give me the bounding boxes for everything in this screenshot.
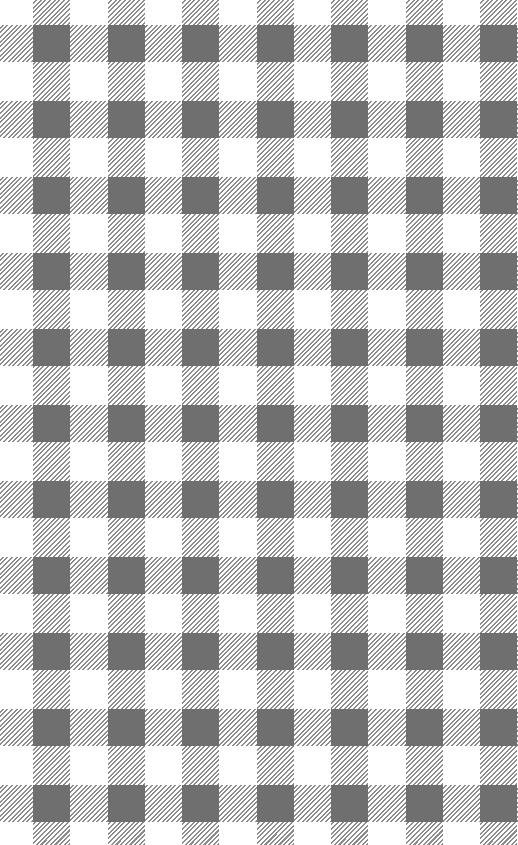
- overlap-square: [480, 177, 517, 214]
- overlap-square: [33, 405, 70, 442]
- overlap-square: [108, 481, 145, 518]
- overlap-square: [257, 557, 294, 594]
- overlap-square: [33, 329, 70, 366]
- overlap-square: [257, 785, 294, 822]
- overlap-square: [33, 177, 70, 214]
- overlap-square: [257, 253, 294, 290]
- overlap-square: [257, 709, 294, 746]
- overlap-square: [480, 329, 517, 366]
- overlap-square: [182, 557, 219, 594]
- overlap-square: [108, 329, 145, 366]
- overlap-square: [480, 25, 517, 62]
- overlap-square: [331, 481, 368, 518]
- overlap-square: [331, 329, 368, 366]
- overlap-square: [182, 785, 219, 822]
- overlap-square: [182, 405, 219, 442]
- overlap-square: [480, 633, 517, 670]
- overlap-square: [331, 633, 368, 670]
- overlap-square: [406, 329, 443, 366]
- overlap-square: [108, 709, 145, 746]
- gingham-pattern: [0, 0, 518, 845]
- overlap-square: [33, 785, 70, 822]
- overlap-square: [257, 25, 294, 62]
- overlap-square: [182, 481, 219, 518]
- overlap-square: [406, 25, 443, 62]
- overlap-square: [182, 25, 219, 62]
- overlap-square: [406, 253, 443, 290]
- overlap-square: [331, 25, 368, 62]
- overlap-square: [108, 101, 145, 138]
- overlap-square: [480, 405, 517, 442]
- overlap-square: [406, 557, 443, 594]
- overlap-square: [108, 633, 145, 670]
- overlap-square: [406, 481, 443, 518]
- overlap-square: [257, 405, 294, 442]
- overlap-square: [406, 709, 443, 746]
- overlap-square: [108, 405, 145, 442]
- overlap-square: [331, 101, 368, 138]
- overlap-square: [480, 481, 517, 518]
- overlap-square: [480, 253, 517, 290]
- overlap-square: [33, 25, 70, 62]
- overlap-square: [406, 101, 443, 138]
- overlap-square: [33, 633, 70, 670]
- overlap-square: [480, 785, 517, 822]
- overlap-square: [406, 785, 443, 822]
- overlap-square: [33, 557, 70, 594]
- overlap-square: [406, 177, 443, 214]
- overlap-square: [33, 709, 70, 746]
- overlap-square: [331, 557, 368, 594]
- overlap-square: [331, 709, 368, 746]
- overlap-square: [182, 101, 219, 138]
- overlap-square: [33, 481, 70, 518]
- overlap-square: [108, 253, 145, 290]
- overlap-square: [257, 329, 294, 366]
- overlap-square: [33, 253, 70, 290]
- overlap-square: [182, 177, 219, 214]
- overlap-square: [257, 633, 294, 670]
- overlap-square: [182, 633, 219, 670]
- overlap-square: [406, 405, 443, 442]
- overlap-square: [33, 101, 70, 138]
- overlap-square: [182, 709, 219, 746]
- overlap-square: [480, 557, 517, 594]
- overlap-square: [480, 101, 517, 138]
- overlap-square: [257, 101, 294, 138]
- overlap-square: [182, 253, 219, 290]
- overlap-square: [331, 785, 368, 822]
- overlap-square: [480, 709, 517, 746]
- overlap-square: [257, 177, 294, 214]
- overlap-square: [331, 253, 368, 290]
- overlap-square: [108, 785, 145, 822]
- overlap-square: [108, 25, 145, 62]
- overlap-square: [331, 405, 368, 442]
- overlap-square: [406, 633, 443, 670]
- overlap-square: [182, 329, 219, 366]
- overlap-square: [108, 557, 145, 594]
- overlap-square: [331, 177, 368, 214]
- overlap-square: [257, 481, 294, 518]
- overlap-square: [108, 177, 145, 214]
